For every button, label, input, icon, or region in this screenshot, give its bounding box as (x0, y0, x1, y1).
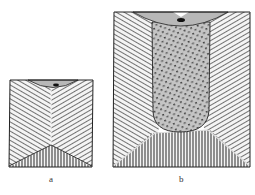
panel-b (113, 12, 250, 167)
panel-a-label: a (49, 175, 53, 184)
panel-b-label: b (179, 175, 184, 184)
panel-a-cavity-icon (53, 84, 59, 87)
panel-b-core-zone (152, 22, 210, 132)
panel-a (9, 80, 93, 167)
ingot-structure-diagram (0, 0, 255, 195)
panel-b-cavity-icon (177, 18, 185, 22)
